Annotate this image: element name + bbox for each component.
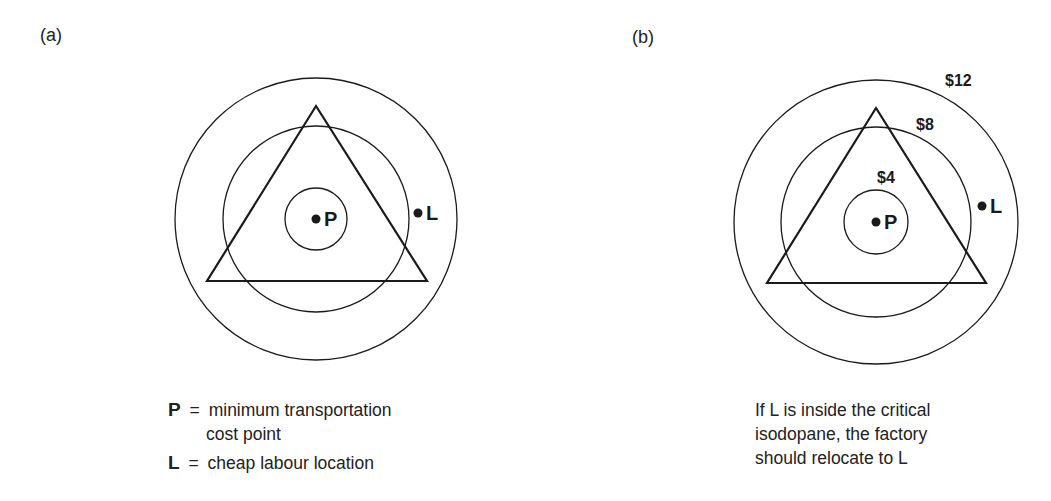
- caption-b: If L is inside the critical isodopane, t…: [755, 398, 930, 470]
- locational-triangle: [767, 108, 986, 283]
- legend-text-l: cheap labour location: [208, 453, 374, 473]
- legend-text-p-cont: cost point: [168, 422, 392, 446]
- point-l-label: L: [426, 202, 438, 224]
- point-l-dot: [414, 209, 423, 218]
- point-p-dot: [312, 215, 321, 224]
- legend-text-p: minimum transportation: [209, 400, 392, 420]
- isodopane-cost-label: $12: [945, 72, 972, 89]
- caption-line-1: If L is inside the critical: [755, 398, 930, 422]
- legend-item-p: P = minimum transportation: [168, 398, 392, 422]
- legend-symbol-l: L: [168, 452, 180, 473]
- legend-item-l: L = cheap labour location: [168, 451, 392, 475]
- legend-a: P = minimum transportation cost point L …: [168, 398, 392, 475]
- isodopane-cost-label: $4: [877, 169, 895, 186]
- legend-equals: =: [190, 400, 200, 420]
- point-p-label: P: [324, 208, 337, 230]
- point-l-dot: [978, 202, 987, 211]
- locational-triangle: [207, 106, 427, 281]
- diagram-panel-a: PL: [175, 78, 457, 360]
- caption-line-3: should relocate to L: [755, 446, 930, 470]
- point-p-dot: [872, 218, 881, 227]
- legend-equals: =: [188, 453, 198, 473]
- isodopane-cost-label: $8: [916, 116, 934, 133]
- point-l-label: L: [990, 195, 1002, 217]
- legend-symbol-p: P: [168, 399, 181, 420]
- point-p-label: P: [884, 211, 897, 233]
- diagram-panel-b: PL$4$8$12: [734, 72, 1018, 364]
- caption-line-2: isodopane, the factory: [755, 422, 930, 446]
